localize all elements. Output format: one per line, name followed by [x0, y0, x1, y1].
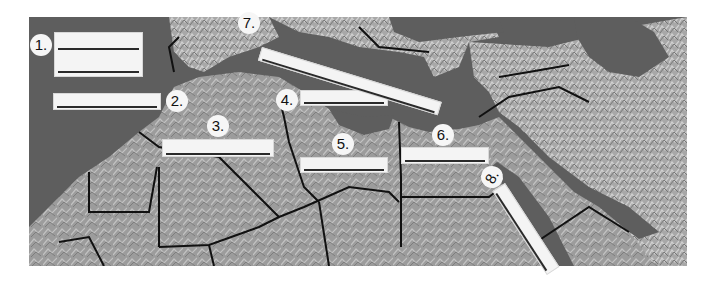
label-5-answer-box[interactable]: [300, 157, 388, 173]
label-6-answer-box[interactable]: [401, 147, 489, 164]
answer-line: [304, 102, 384, 104]
answer-line: [166, 153, 270, 155]
label-4-number: 4.: [276, 89, 298, 111]
label-3-answer-box[interactable]: [162, 139, 274, 157]
label-7-number: 7.: [238, 12, 260, 34]
label-2-answer-box[interactable]: [53, 93, 161, 110]
label-2-number: 2.: [166, 90, 188, 112]
answer-line: [58, 48, 139, 50]
label-5-number: 5.: [332, 133, 354, 155]
answer-line: [405, 160, 485, 162]
label-1-number: 1.: [30, 34, 52, 56]
answer-line: [304, 169, 384, 171]
label-1-answer-box[interactable]: [54, 32, 143, 77]
label-6-number: 6.: [432, 124, 454, 146]
answer-line: [58, 71, 139, 73]
label-3-number: 3.: [207, 115, 229, 137]
answer-line: [57, 106, 157, 108]
